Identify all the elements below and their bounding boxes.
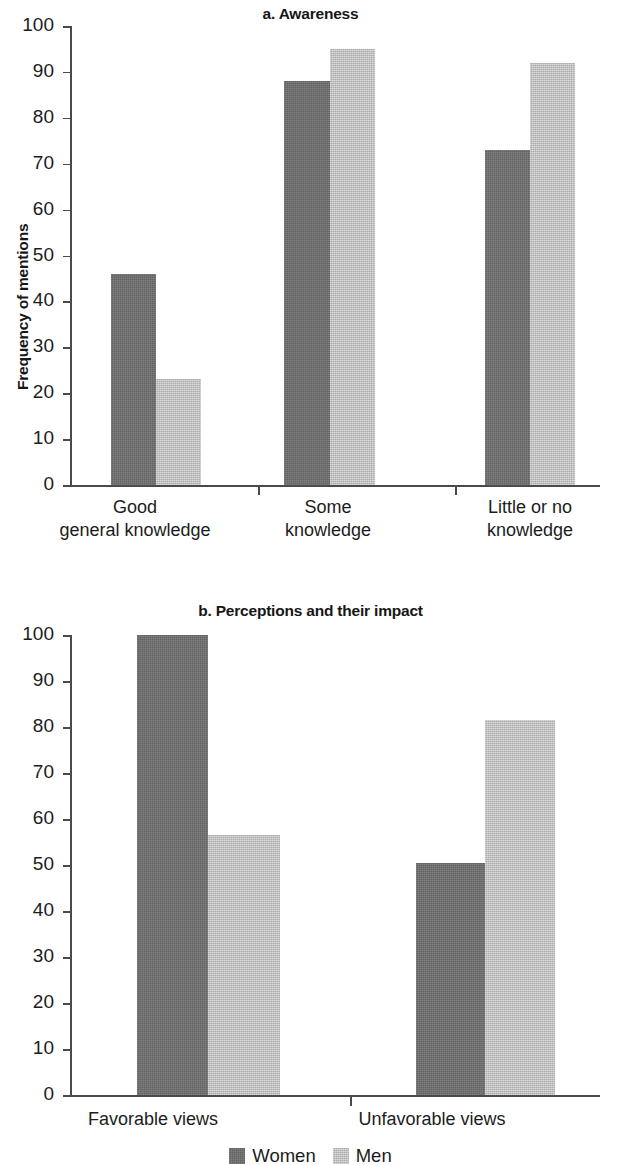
chart-b-ytick-30: 30 [63,957,70,959]
chart-b-xtick-separator-1 [350,1095,352,1106]
chart-a-ytick-70: 70 [63,164,70,166]
chart-a-y-axis-label: Frequency of mentions [14,224,32,390]
chart-a-title: a. Awareness [0,5,621,23]
chart-a-ytick-0: 0 [63,485,70,487]
chart-b-category-label-2: Unfavorable views [322,1108,542,1131]
chart-b-ytick-70: 70 [63,773,70,775]
chart-a-x-axis [70,485,600,487]
chart-b-x-axis [70,1095,600,1097]
chart-a-ytick-60: 60 [63,210,70,212]
chart-a-ytick-20: 20 [63,393,70,395]
chart-b-ytick-90: 90 [63,681,70,683]
chart-a-ytick-90: 90 [63,72,70,74]
bar-b-unfavorable-women [416,863,485,1095]
bar-a-some-men [330,49,375,485]
chart-b-ytick-20: 20 [63,1003,70,1005]
legend-swatch-men-icon [333,1148,349,1164]
chart-a-xtick-separator-2 [455,485,457,495]
chart-a-ytick-10: 10 [63,439,70,441]
chart-a-ytick-30: 30 [63,347,70,349]
chart-a-category-label-3: Little or no knowledge [440,496,620,542]
bar-b-unfavorable-men [485,720,555,1095]
chart-a-ytick-50: 50 [63,256,70,258]
chart-b-ytick-60: 60 [63,819,70,821]
chart-panel-perceptions: b. Perceptions and their impact Frequenc… [0,600,621,1165]
bar-b-favorable-men [208,835,280,1095]
bar-a-good-men [156,379,201,485]
chart-a-ytick-40: 40 [63,301,70,303]
chart-b-ytick-40: 40 [63,911,70,913]
legend-label-women: Women [252,1145,315,1165]
chart-a-ytick-100: 100 [63,26,70,28]
legend-item-women: Women [229,1145,315,1165]
chart-a-xtick-separator-1 [258,485,260,495]
bar-b-favorable-women [137,635,208,1095]
chart-b-category-label-1: Favorable views [43,1108,263,1131]
bar-a-good-women [111,274,156,485]
legend-label-men: Men [356,1145,392,1165]
chart-a-y-axis [70,26,72,487]
chart-b-ytick-80: 80 [63,727,70,729]
chart-a-category-label-1: Good general knowledge [45,496,225,542]
chart-b-title: b. Perceptions and their impact [0,602,621,620]
chart-b-plot-area: 100 90 80 70 60 50 40 30 20 10 0 [70,635,600,1095]
chart-legend: Women Men [0,1145,621,1165]
bar-a-little-men [530,63,575,485]
chart-a-plot-area: 100 90 80 70 60 50 40 30 20 10 0 [70,26,600,485]
legend-item-men: Men [333,1145,392,1165]
legend-swatch-women-icon [229,1148,245,1164]
chart-b-y-axis [70,635,72,1096]
chart-b-ytick-50: 50 [63,865,70,867]
bar-a-little-women [485,150,530,485]
bar-a-some-women [284,81,330,485]
chart-b-ytick-0: 0 [63,1095,70,1097]
chart-a-category-label-2: Some knowledge [238,496,418,542]
chart-a-ytick-80: 80 [63,118,70,120]
chart-b-ytick-100: 100 [63,635,70,637]
chart-panel-awareness: a. Awareness Frequency of mentions 100 9… [0,0,621,560]
chart-b-ytick-10: 10 [63,1049,70,1051]
